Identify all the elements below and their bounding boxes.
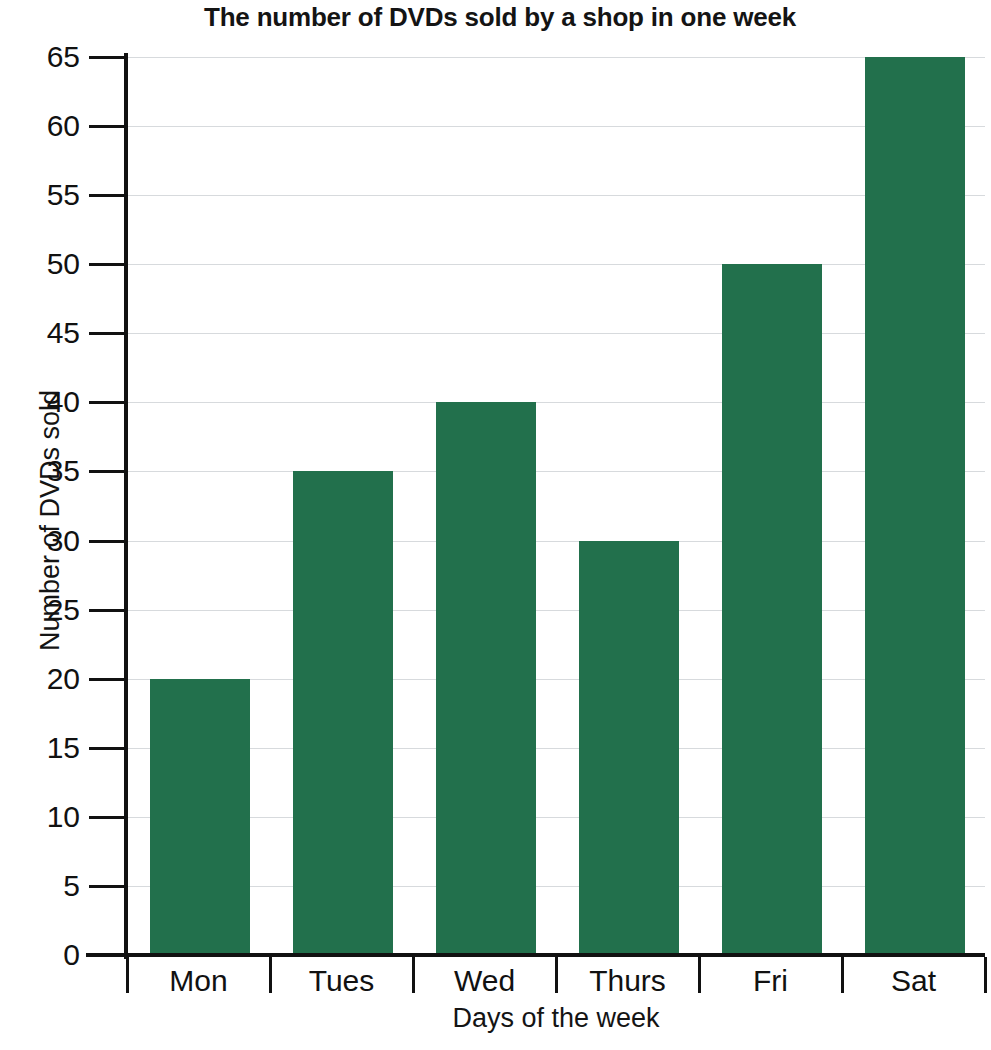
y-axis-tick — [89, 609, 127, 612]
gridline — [127, 679, 985, 680]
gridline — [127, 748, 985, 749]
gridline — [127, 886, 985, 887]
plot-area — [127, 57, 985, 955]
y-axis-tick-label: 35 — [6, 456, 80, 486]
gridline — [127, 195, 985, 196]
y-axis-tick — [89, 263, 127, 266]
y-axis-tick — [89, 470, 127, 473]
x-axis-tick-label: Mon — [127, 961, 270, 1001]
bar — [436, 402, 536, 955]
bar — [722, 264, 822, 955]
gridline — [127, 126, 985, 127]
gridline — [127, 541, 985, 542]
y-axis-tick — [89, 885, 127, 888]
y-axis-tick — [89, 678, 127, 681]
y-axis-tick-label: 5 — [6, 871, 80, 901]
x-axis-line — [86, 953, 985, 957]
y-axis-tick — [89, 747, 127, 750]
chart-title: The number of DVDs sold by a shop in one… — [120, 0, 880, 34]
y-axis-tick-label: 0 — [6, 940, 80, 970]
x-axis-tick-label: Wed — [413, 961, 556, 1001]
gridline — [127, 610, 985, 611]
y-axis-tick-label: 25 — [6, 595, 80, 625]
gridline — [127, 817, 985, 818]
y-axis-tick-label: 65 — [6, 42, 80, 72]
x-axis-tick-label: Sat — [842, 961, 985, 1001]
y-axis-tick — [89, 954, 127, 957]
y-axis-tick-label: 50 — [6, 249, 80, 279]
gridline — [127, 264, 985, 265]
y-axis-tick-label: 60 — [6, 111, 80, 141]
bar — [150, 679, 250, 955]
bar — [293, 471, 393, 955]
y-axis-tick-label: 30 — [6, 526, 80, 556]
y-axis-tick — [89, 816, 127, 819]
y-axis-tick-label: 20 — [6, 664, 80, 694]
y-axis-tick — [89, 194, 127, 197]
gridline — [127, 333, 985, 334]
y-axis-tick-label: 40 — [6, 387, 80, 417]
y-axis-tick-label: 10 — [6, 802, 80, 832]
x-axis-tick-label: Tues — [270, 961, 413, 1001]
y-axis-tick — [89, 56, 127, 59]
y-axis-tick — [89, 401, 127, 404]
y-axis-line — [124, 53, 128, 959]
bar — [579, 541, 679, 955]
gridline — [127, 471, 985, 472]
y-axis-tick-label: 55 — [6, 180, 80, 210]
gridline — [127, 402, 985, 403]
gridline — [127, 57, 985, 58]
y-axis-tick-label: 15 — [6, 733, 80, 763]
bar — [865, 57, 965, 955]
y-axis-tick-label: 45 — [6, 318, 80, 348]
y-axis-tick — [89, 332, 127, 335]
x-axis-title: Days of the week — [127, 1003, 985, 1034]
y-axis-tick — [89, 125, 127, 128]
y-axis-tick — [89, 540, 127, 543]
x-axis-tick-label: Fri — [699, 961, 842, 1001]
x-axis-tick-label: Thurs — [556, 961, 699, 1001]
